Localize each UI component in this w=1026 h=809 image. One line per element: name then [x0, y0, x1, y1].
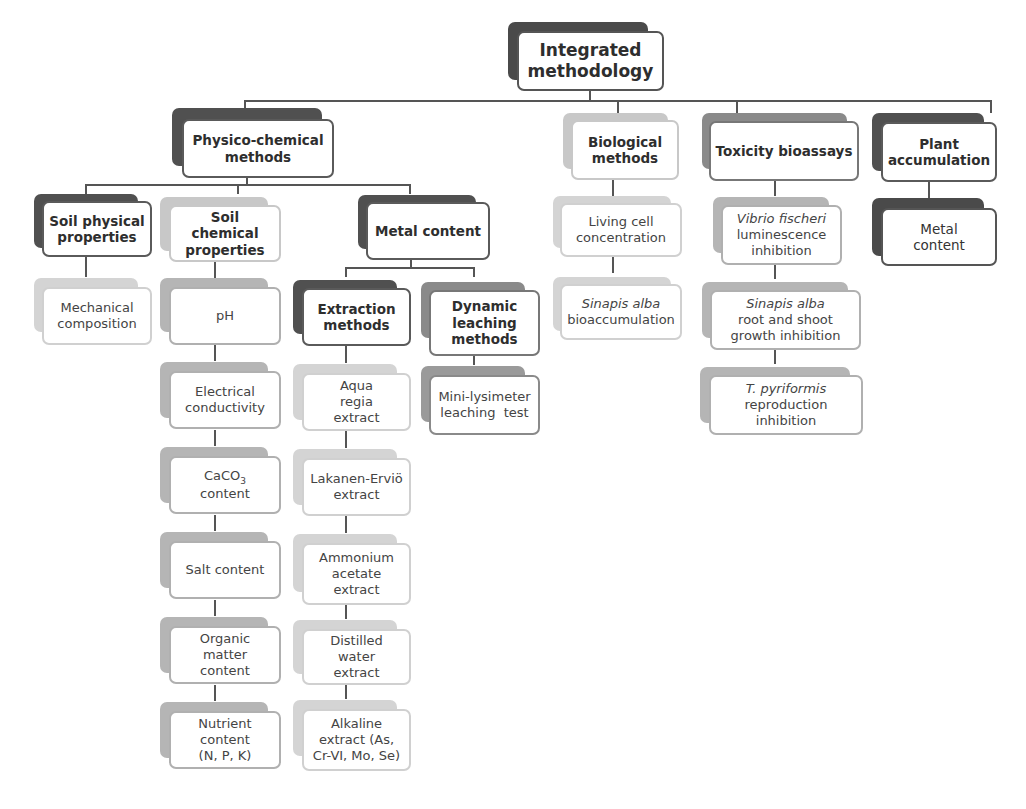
node-label: Dynamic leaching methods — [429, 290, 540, 356]
node-label: Plant accumulation — [881, 122, 997, 182]
connector — [473, 267, 475, 277]
node-label: Mechanical composition — [42, 287, 152, 345]
connector — [612, 255, 614, 273]
species-name: T. pyriformis — [746, 381, 827, 397]
node-label: Mini-lysimeter leaching test — [429, 375, 540, 435]
connector — [345, 267, 347, 277]
species-name: Vibrio fischeri — [737, 211, 826, 227]
connector — [214, 685, 216, 701]
node-label: pH — [169, 287, 281, 345]
connector — [345, 685, 347, 699]
caco3-formula: CaCO3 — [204, 468, 246, 487]
node-label: CaCO3 content — [169, 456, 281, 514]
connector — [85, 255, 87, 277]
species-name: Sinapis alba — [582, 296, 661, 312]
node-label: Integrated methodology — [517, 31, 664, 91]
connector — [612, 180, 614, 196]
node-label: Sinapis alba bioaccumulation — [560, 284, 682, 340]
connector — [928, 182, 930, 198]
node-label: Vibrio fischeri luminescence inhibition — [721, 205, 842, 265]
connector — [237, 184, 239, 194]
connector — [345, 430, 347, 448]
connector — [409, 184, 411, 194]
node-label: T. pyriformis reproduction inhibition — [709, 375, 863, 435]
connector — [345, 605, 347, 619]
connector — [990, 100, 992, 113]
node-label: Nutrient content (N, P, K) — [169, 711, 281, 769]
node-label: Biological methods — [571, 120, 679, 180]
connector — [473, 355, 475, 365]
node-label: Sinapis alba root and shoot growth inhib… — [710, 290, 861, 350]
connector — [736, 100, 738, 113]
node-label: Aqua regia extract — [302, 373, 411, 431]
connector — [774, 265, 776, 279]
connector — [345, 515, 347, 533]
connector — [774, 180, 776, 196]
connector — [214, 600, 216, 616]
node-label: Metal content — [366, 202, 490, 260]
connector — [345, 267, 475, 269]
node-label: Soil chemical properties — [169, 205, 281, 262]
connector — [774, 350, 776, 364]
node-label: Ammonium acetate extract — [302, 543, 411, 605]
node-label: Electrical conductivity — [169, 371, 281, 429]
connector — [85, 184, 411, 186]
node-label: Organic matter content — [169, 626, 281, 684]
node-label: Distilled water extract — [302, 629, 411, 685]
connector — [214, 515, 216, 531]
node-label: Toxicity bioassays — [709, 121, 859, 181]
connector — [345, 345, 347, 363]
connector — [617, 100, 619, 113]
node-label: Soil physical properties — [42, 201, 152, 257]
node-label: Metal content — [881, 208, 997, 266]
node-label: Physico-chemical methods — [182, 119, 334, 178]
connector — [85, 184, 87, 194]
connector — [214, 345, 216, 361]
node-label: Salt content — [169, 541, 281, 599]
connector — [214, 262, 216, 278]
connector — [214, 430, 216, 446]
node-label: Living cell concentration — [560, 203, 682, 257]
node-label: Extraction methods — [302, 288, 411, 346]
species-name: Sinapis alba — [746, 296, 825, 312]
node-label: Alkaline extract (As, Cr-VI, Mo, Se) — [302, 709, 411, 771]
node-label: Lakanen-Erviö extract — [302, 458, 411, 516]
